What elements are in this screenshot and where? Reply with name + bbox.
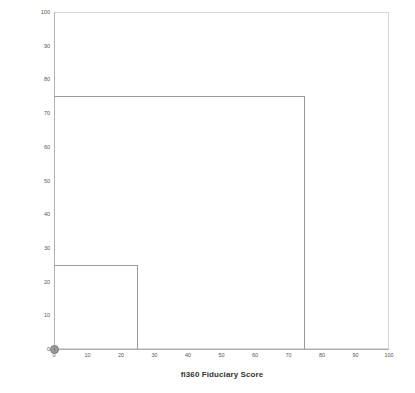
y-tick-label: 80 [28,76,50,82]
plot-area [54,12,389,349]
x-tick-label: 10 [76,352,100,359]
x-axis-title: fi360 Fiduciary Score [52,370,392,379]
chart-container: 0102030405060708090100 01020304050607080… [0,0,415,393]
y-axis-ticks: 0102030405060708090100 [24,12,50,349]
y-tick-label: 100 [28,9,50,15]
x-tick-label: 80 [310,352,334,359]
y-axis-spine [54,12,55,349]
x-tick-label: 60 [243,352,267,359]
x-tick-label: 50 [210,352,234,359]
x-tick-label: 90 [344,352,368,359]
x-axis-ticks: 0102030405060708090100 [54,350,389,364]
y-tick-label: 70 [28,110,50,116]
x-tick-label: 40 [176,352,200,359]
x-tick-label: 20 [109,352,133,359]
y-tick-label: 30 [28,245,50,251]
y-tick-label: 40 [28,211,50,217]
x-tick-label: 70 [277,352,301,359]
x-tick-label: 0 [42,352,66,359]
y-tick-label: 60 [28,144,50,150]
y-tick-label: 90 [28,43,50,49]
y-tick-label: 20 [28,279,50,285]
x-tick-label: 30 [143,352,167,359]
x-tick-label: 100 [377,352,401,359]
y-tick-label: 50 [28,178,50,184]
y-tick-label: 10 [28,312,50,318]
